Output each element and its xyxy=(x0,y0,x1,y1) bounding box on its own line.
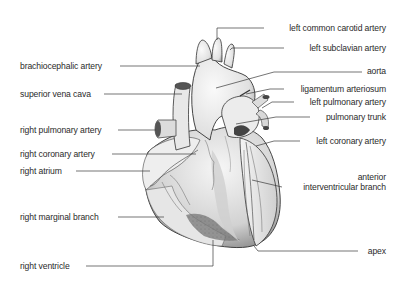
label-superior-vena-cava: superior vena cava xyxy=(20,89,91,99)
leader-apex xyxy=(254,246,358,251)
leader-left-subclavian xyxy=(230,48,284,50)
label-apex: apex xyxy=(368,246,386,256)
label-aorta: aorta xyxy=(367,66,386,76)
label-ligamentum-arteriosum: ligamentum arteriosum xyxy=(301,84,386,94)
label-right-ventricle: right ventricle xyxy=(20,261,70,271)
label-left-subclavian-artery: left subclavian artery xyxy=(309,43,386,53)
label-left-coronary-artery: left coronary artery xyxy=(316,136,386,146)
leader-left-common-carotid xyxy=(217,28,264,40)
label-brachiocephalic-artery: brachiocephalic artery xyxy=(20,61,102,71)
label-interventricular-branch: interventricular branch xyxy=(303,182,386,192)
label-pulmonary-trunk: pulmonary trunk xyxy=(326,112,386,122)
label-right-coronary-artery: right coronary artery xyxy=(20,149,95,159)
label-left-pulmonary-artery: left pulmonary artery xyxy=(310,97,386,107)
leader-left-pulmonary-artery xyxy=(262,102,294,108)
label-right-pulmonary-artery: right pulmonary artery xyxy=(20,125,101,135)
label-left-common-carotid-artery: left common carotid artery xyxy=(289,23,386,33)
label-right-atrium: right atrium xyxy=(20,166,62,176)
label-right-marginal-branch: right marginal branch xyxy=(20,212,99,222)
heart-diagram: brachiocephalic artery superior vena cav… xyxy=(0,0,406,284)
label-anterior: anterior xyxy=(358,172,386,182)
leader-right-ventricle xyxy=(86,240,213,266)
